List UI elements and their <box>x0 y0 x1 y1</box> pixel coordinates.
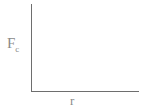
x-axis <box>31 91 139 92</box>
y-axis <box>31 4 32 92</box>
x-axis-label: r <box>70 94 74 107</box>
y-axis-label: Fc <box>7 36 19 54</box>
